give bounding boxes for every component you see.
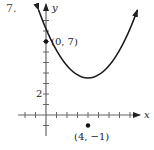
y-axis-label: y (51, 2, 58, 13)
point-y-intercept (44, 39, 48, 43)
point-label-y-intercept: (0, 7) (51, 36, 78, 47)
point-vertex (86, 123, 90, 127)
point-label-vertex: (4, −1) (74, 131, 109, 142)
y-tick-label-2: 2 (36, 88, 42, 99)
parabola-graph: y x (0, 7) (4, −1) 2 (0, 0, 154, 150)
x-axis-label: x (144, 109, 150, 120)
